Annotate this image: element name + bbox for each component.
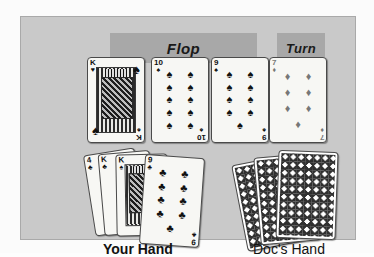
card-pip: ♦	[277, 68, 298, 84]
card-pip: ♠	[159, 119, 180, 132]
card-pip: ♠	[180, 81, 201, 94]
board-card-king[interactable]: K ♥ ♠ ♠ K ♠	[87, 57, 145, 143]
your-hand-card-4-nine-clubs[interactable]: 9 ♣ ♣♣♣♣♣♣♣♣♣ 9 ♣	[139, 154, 205, 248]
club-icon: ♣	[192, 231, 197, 238]
spade-icon: ♠	[214, 66, 218, 73]
card-pip: ♠	[219, 119, 261, 132]
card-index-bottom-right: 9 ♣	[191, 231, 197, 245]
card-suit-icon: ♠	[137, 127, 141, 134]
card-pip: ♠	[180, 106, 201, 119]
card-pip: ♠	[219, 94, 240, 107]
card-pip: ♣	[148, 220, 193, 237]
pip-grid: ♠♠♠♠♠♠♠♠♠	[219, 68, 261, 132]
flop-banner-label: Flop	[167, 40, 200, 57]
card-rank: 10	[197, 133, 206, 141]
card-pip: ♠	[219, 68, 240, 81]
card-pip: ♠	[180, 68, 201, 81]
spade-icon: ♠	[262, 127, 266, 134]
docs-hand-card-back-3[interactable]	[275, 150, 338, 240]
card-pip: ♠	[240, 106, 261, 119]
card-index-bottom-right: 10 ♠	[197, 127, 206, 141]
card-pip: ♠	[240, 81, 261, 94]
card-back-pattern	[279, 153, 336, 237]
card-index-top-left: 9 ♠	[214, 59, 218, 73]
card-rank: 9	[262, 133, 266, 141]
card-pip: ♦	[298, 100, 319, 116]
club-icon: ♣	[102, 163, 107, 170]
card-index-top-left: K ♠	[118, 156, 124, 170]
turn-banner-label: Turn	[286, 41, 316, 56]
card-pip: ♦	[277, 100, 298, 116]
card-pip: ♠	[159, 68, 180, 81]
club-icon: ♣	[87, 163, 93, 171]
card-pip: ♠	[159, 94, 180, 107]
card-pip: ♦	[298, 84, 319, 100]
diamond-icon: ♦	[320, 127, 324, 134]
card-index-top-left: 7 ♦	[272, 59, 276, 73]
card-pip: ♠	[219, 106, 240, 119]
table-panel: Flop Turn K ♥ ♠ ♠ K ♠ 10 ♠ ♠♠♠♠♠♠♠♠♠♠	[20, 16, 356, 240]
card-pip: ♠	[240, 68, 261, 81]
card-pip: ♠	[159, 81, 180, 94]
card-pip: ♠	[219, 81, 240, 94]
card-pip: ♠	[180, 94, 201, 107]
pip-grid: ♣♣♣♣♣♣♣♣♣	[148, 166, 197, 237]
your-hand-label: Your Hand	[103, 241, 173, 257]
docs-hand-label: Doc's Hand	[253, 241, 325, 257]
card-index-top-left: K ♥	[90, 59, 96, 73]
card-pip: ♦	[277, 116, 319, 132]
spade-icon: ♠	[200, 127, 204, 134]
card-suit-icon: ♥	[91, 66, 95, 73]
card-index-top-left: 4 ♣	[86, 156, 93, 171]
spade-icon: ♠	[133, 63, 140, 76]
card-index-bottom-right: 7 ♦	[320, 127, 324, 141]
card-rank: K	[136, 133, 142, 141]
card-pip: ♦	[298, 68, 319, 84]
card-index-top-left: K ♣	[101, 156, 108, 170]
card-index-bottom-right: K ♠	[136, 127, 142, 141]
board-card-ten-spades[interactable]: 10 ♠ ♠♠♠♠♠♠♠♠♠♠ 10 ♠	[151, 57, 209, 143]
board-card-seven-diamonds[interactable]: 7 ♦ ♦♦♦♦♦♦♦ 7 ♦	[269, 57, 327, 143]
spade-icon: ♠	[119, 163, 123, 170]
card-pip: ♠	[159, 106, 180, 119]
card-rank: 7	[320, 133, 324, 141]
card-pip: ♠	[240, 94, 261, 107]
king-portrait-art	[96, 67, 136, 133]
card-index-bottom-right: 9 ♠	[262, 127, 266, 141]
pip-grid: ♠♠♠♠♠♠♠♠♠♠	[159, 68, 201, 132]
spade-icon: ♠	[92, 124, 99, 137]
card-pip: ♦	[277, 84, 298, 100]
pip-grid: ♦♦♦♦♦♦♦	[277, 68, 319, 132]
board-card-nine-spades[interactable]: 9 ♠ ♠♠♠♠♠♠♠♠♠ 9 ♠	[211, 57, 269, 143]
diamond-icon: ♦	[272, 66, 276, 73]
